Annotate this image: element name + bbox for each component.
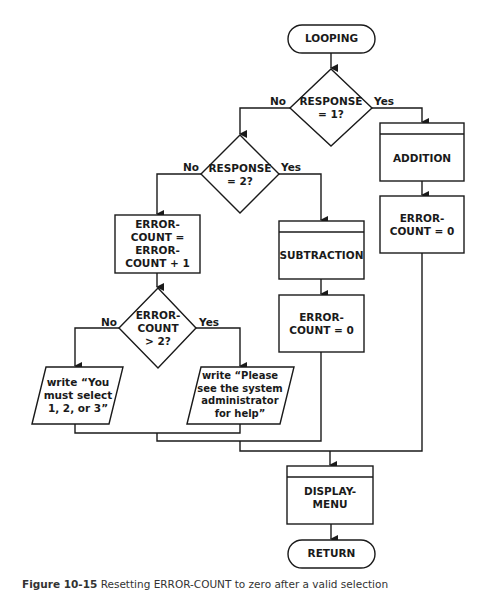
figure-number: Figure 10-15 xyxy=(22,578,97,590)
subtraction-reset-label: ERROR- COUNT = 0 xyxy=(279,311,364,337)
return-label: RETURN xyxy=(288,547,375,560)
write-admin-label: write “Please see the system administrat… xyxy=(190,370,290,420)
looping-label: LOOPING xyxy=(288,32,375,45)
response-1-label: RESPONSE = 1? xyxy=(290,95,372,121)
addition-label: ADDITION xyxy=(380,152,464,165)
error-count-check-label: ERROR- COUNT > 2? xyxy=(119,309,197,348)
r2-yes-label: Yes xyxy=(281,161,301,173)
ec-no-label: No xyxy=(101,316,117,328)
increment-label: ERROR- COUNT = ERROR- COUNT + 1 xyxy=(115,218,200,270)
response-2-label: RESPONSE = 2? xyxy=(199,162,281,188)
r1-yes-label: Yes xyxy=(374,95,394,107)
r2-no-label: No xyxy=(183,161,199,173)
display-menu-label: DISPLAY- MENU xyxy=(287,485,373,511)
write-select-label: write “You must select 1, 2, or 3” xyxy=(36,376,120,415)
r1-no-label: No xyxy=(270,95,286,107)
ec-yes-label: Yes xyxy=(199,316,219,328)
subtraction-label: SUBTRACTION xyxy=(279,249,364,262)
figure-caption: Figure 10-15 Resetting ERROR-COUNT to ze… xyxy=(22,578,388,590)
figure-caption-text: Resetting ERROR-COUNT to zero after a va… xyxy=(101,578,388,590)
addition-reset-label: ERROR- COUNT = 0 xyxy=(380,212,464,238)
